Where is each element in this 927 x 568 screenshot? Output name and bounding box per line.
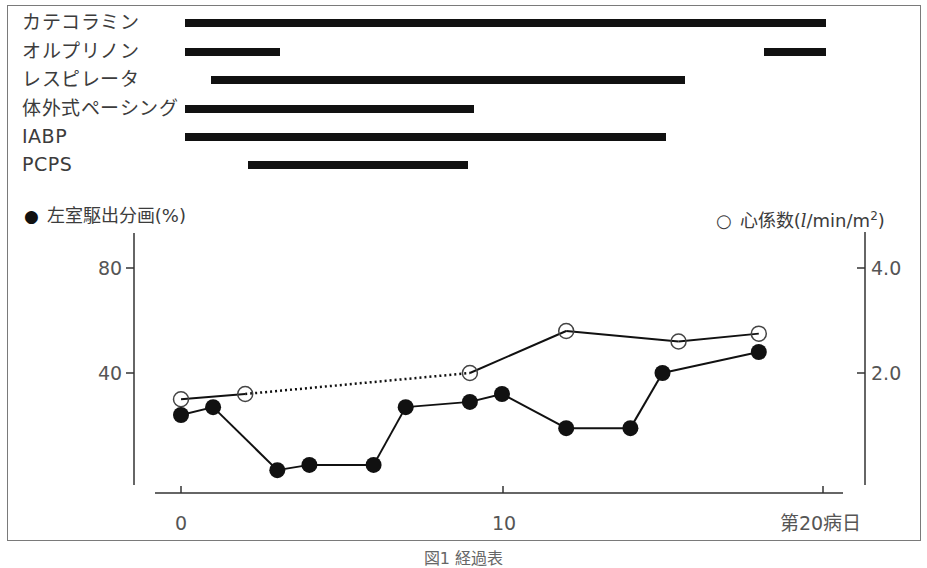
- figure-caption: 図1 経過表: [0, 550, 927, 568]
- line-segment: [213, 407, 277, 470]
- line-segment: [406, 402, 470, 407]
- lvef-data-point: [205, 399, 221, 415]
- line-segment: [630, 373, 662, 428]
- lvef-data-point: [655, 365, 671, 381]
- dotted-line-segment: [245, 373, 470, 394]
- line-segment: [566, 331, 678, 342]
- lvef-data-point: [301, 457, 317, 473]
- lvef-data-point: [462, 394, 478, 410]
- lvef-data-point: [558, 420, 574, 436]
- lvef-data-point: [398, 399, 414, 415]
- series-layer: [173, 324, 767, 479]
- line-segment: [679, 334, 759, 342]
- line-segment: [181, 394, 245, 399]
- lvef-data-point: [366, 457, 382, 473]
- lvef-data-point: [173, 407, 189, 423]
- lvef-data-point: [494, 386, 510, 402]
- line-segment: [502, 394, 566, 428]
- lvef-data-point: [622, 420, 638, 436]
- line-segment: [470, 331, 566, 373]
- lvef-data-point: [751, 344, 767, 360]
- line-segment: [663, 352, 759, 373]
- lvef-data-point: [269, 462, 285, 478]
- line-segment: [374, 407, 406, 465]
